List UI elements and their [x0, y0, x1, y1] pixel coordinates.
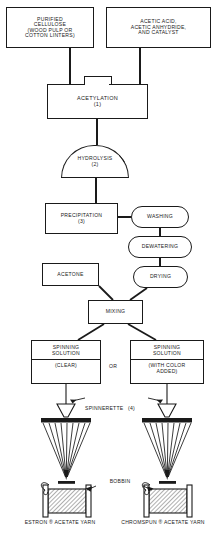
node-dewatering[interactable]: DEWATERING	[128, 236, 192, 258]
node-precipitation[interactable]: PRECIPITATION (3)	[45, 203, 118, 234]
acids-line-3: AND CATALYST	[138, 30, 178, 36]
node-drying[interactable]: DRYING	[133, 266, 188, 288]
precipitation-step: (3)	[78, 219, 85, 225]
node-acetic-acid-anhydride-catalyst[interactable]: ACETIC ACID, ACETIC ANHYDRIDE, AND CATAL…	[106, 7, 211, 48]
connector-mixing-solution-right	[128, 324, 156, 340]
washing-label: WASHING	[147, 214, 173, 220]
connector-acetone-mixing	[99, 286, 113, 300]
drying-label: DRYING	[150, 274, 171, 280]
node-acetylation[interactable]: ACETYLATION (1)	[47, 84, 148, 119]
bobbin-left	[41, 483, 91, 517]
spinning-solution-left-qualifier: (CLEAR)	[32, 360, 100, 369]
yarn-left-line-1: ESTRON ® ACETATE	[25, 519, 79, 525]
node-spinning-solution-colored[interactable]: SPINNING SOLUTION (WITH COLOR ADDED)	[130, 340, 204, 384]
acetone-label: ACETONE	[57, 272, 83, 278]
hydrolysis-step: (2)	[92, 162, 99, 168]
spinning-solution-right-title: SPINNING SOLUTION	[131, 341, 203, 359]
label-chromspun-acetate-yarn: CHROMSPUN ® ACETATE YARN	[108, 519, 218, 525]
mixing-label: MIXING	[106, 309, 126, 315]
sol-right-line-4: ADDED)	[131, 369, 203, 375]
notch-seam-mask	[85, 83, 109, 86]
node-purified-cellulose[interactable]: PURIFIED CELLULOSE (WOOD PULP OR COTTON …	[6, 7, 94, 48]
yarn-right-line-2: YARN	[190, 519, 205, 525]
yarn-left-line-2: YARN	[81, 519, 96, 525]
bobbin-callout-label: BOBBIN	[100, 478, 140, 484]
connector-drying-mixing	[130, 288, 147, 300]
sol-left-line-3: (CLEAR)	[32, 363, 100, 369]
node-washing[interactable]: WASHING	[131, 206, 189, 228]
cellulose-line-4: COTTON LINTERS)	[25, 33, 75, 39]
acetylation-step: (1)	[94, 102, 102, 108]
dewatering-label: DEWATERING	[142, 244, 178, 250]
spinning-solution-left-title: SPINNING SOLUTION	[32, 341, 100, 359]
spinnerette-step: (4)	[128, 405, 135, 411]
spinning-solution-right-qualifier: (WITH COLOR ADDED)	[131, 360, 203, 374]
yarn-right-line-1: CHROMSPUN ® ACETATE	[121, 519, 188, 525]
connector-mixing-solution-left	[78, 324, 104, 340]
label-estron-acetate-yarn: ESTRON ® ACETATE YARN	[8, 519, 112, 525]
sol-left-line-2: SOLUTION	[32, 351, 100, 357]
node-mixing[interactable]: MIXING	[88, 300, 143, 324]
spinnerette-callout: SPINNERETTE (4)	[70, 396, 150, 414]
node-acetone[interactable]: ACETONE	[42, 263, 99, 286]
sol-right-line-2: SOLUTION	[131, 351, 203, 357]
spinnerette-label-text: SPINNERETTE	[85, 405, 123, 411]
or-separator-label: OR	[101, 363, 125, 369]
node-spinning-solution-clear[interactable]: SPINNING SOLUTION (CLEAR)	[31, 340, 101, 384]
